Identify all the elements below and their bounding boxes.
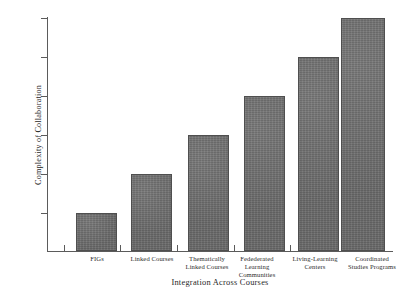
x-axis-line xyxy=(47,251,393,252)
category-label-line-1: Linked Courses xyxy=(122,255,182,263)
category-label-line-1: FIGs xyxy=(70,255,124,263)
category-label-line-2: Learning xyxy=(228,263,286,271)
chart-title-cropped xyxy=(0,0,411,4)
bar-chart-figure: FIGsLinked CoursesThematicallyLinked Cou… xyxy=(0,0,411,294)
x-axis-tick-1 xyxy=(120,245,121,251)
x-axis-tick-0 xyxy=(64,245,65,251)
category-label-fedederated-learning-communities: FedederatedLearningCommunities xyxy=(228,255,286,280)
bar-fedederated-learning-communities xyxy=(244,96,285,251)
category-label-line-2: Studies Programs xyxy=(336,263,408,271)
bar-figs xyxy=(76,213,117,251)
bar-living-learning-centers xyxy=(298,57,339,251)
bar-thematically-linked-courses xyxy=(188,135,229,251)
bar-coordinated-studies-programs xyxy=(341,18,385,251)
x-axis-title: Integration Across Courses xyxy=(47,278,393,288)
y-axis-title: Complexity of Collaboration xyxy=(32,18,46,252)
category-label-line-1: Fedederated xyxy=(228,255,286,263)
x-axis-tick-4 xyxy=(290,245,291,251)
category-label-coordinated-studies-programs: CoordinatedStudies Programs xyxy=(336,255,408,271)
category-label-figs: FIGs xyxy=(70,255,124,263)
x-axis-tick-2 xyxy=(177,245,178,251)
bar-linked-courses xyxy=(131,174,172,251)
category-label-line-1: Coordinated xyxy=(336,255,408,263)
x-axis-tick-3 xyxy=(234,245,235,251)
category-label-linked-courses: Linked Courses xyxy=(122,255,182,263)
